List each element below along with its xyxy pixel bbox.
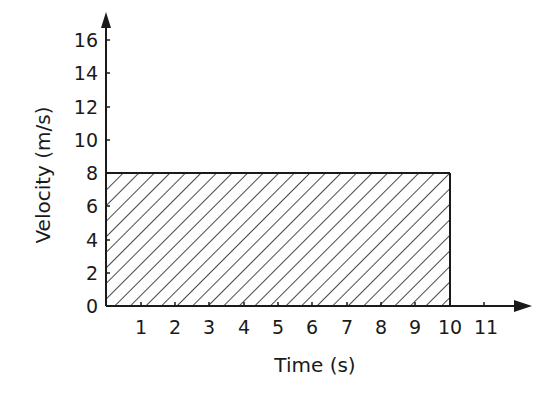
x-tick-label: 7 — [341, 316, 353, 338]
y-tick-label: 14 — [74, 62, 98, 84]
y-tick-label: 2 — [86, 262, 98, 284]
x-tick-label: 4 — [238, 316, 250, 338]
y-tick-label: 4 — [86, 229, 98, 251]
x-tick-label: 5 — [272, 316, 284, 338]
x-tick-label: 11 — [474, 316, 498, 338]
y-tick-label: 10 — [74, 129, 98, 151]
y-tick-label: 8 — [86, 162, 98, 184]
y-tick-label: 12 — [74, 96, 98, 118]
x-axis-arrow-icon — [514, 300, 532, 312]
y-tick-label: 16 — [74, 29, 98, 51]
hatched-area — [106, 173, 450, 306]
x-tick-label: 2 — [169, 316, 181, 338]
y-tick-label: 6 — [86, 195, 98, 217]
x-tick-label: 6 — [306, 316, 318, 338]
x-axis-title: Time (s) — [273, 353, 355, 377]
x-tick-label: 10 — [438, 316, 462, 338]
velocity-time-chart: 0 2 4 6 8 10 12 14 16 1 2 3 4 5 6 7 8 9 … — [0, 0, 554, 394]
x-tick-label: 8 — [375, 316, 387, 338]
x-tick-label: 1 — [135, 316, 147, 338]
x-tick-label: 9 — [409, 316, 421, 338]
y-tick-label: 0 — [86, 295, 98, 317]
y-axis-title: Velocity (m/s) — [31, 106, 55, 243]
x-tick-labels: 1 2 3 4 5 6 7 8 9 10 11 — [135, 316, 498, 338]
y-axis-arrow-icon — [101, 12, 111, 28]
y-tick-labels: 0 2 4 6 8 10 12 14 16 — [74, 29, 98, 317]
x-tick-label: 3 — [203, 316, 215, 338]
